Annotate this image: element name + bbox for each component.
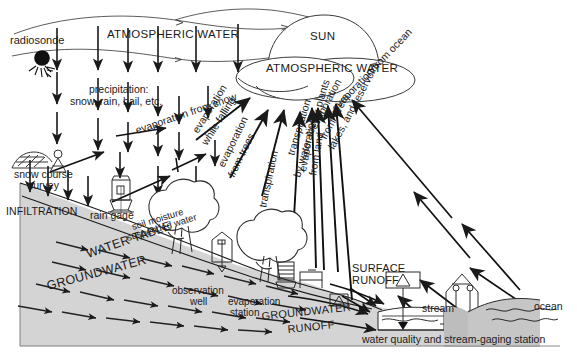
label-surface-runoff-1: SURFACE [352, 262, 405, 274]
label-observation-well-1: observation [172, 285, 224, 296]
radiosonde [29, 50, 55, 77]
label-observation-well-2: well [189, 296, 207, 307]
label-surface-runoff-2: RUNOFF [352, 274, 399, 286]
label-gaging-station: water quality and stream-gaging station [361, 333, 545, 345]
label-precipitation-line1: precipitation: [89, 83, 149, 95]
label-infiltration: INFILTRATION [6, 205, 77, 217]
label-stream: stream [422, 302, 454, 314]
hydrologic-cycle-diagram: radiosonde ATMOSPHERIC WATER SUN ATMOSPH… [0, 0, 577, 364]
label-radiosonde: radiosonde [10, 34, 64, 46]
label-ocean: ocean [534, 300, 563, 312]
label-rain-gage: rain gage [90, 209, 134, 221]
label-snow-course-2: survey [28, 179, 60, 191]
label-sun: SUN [310, 30, 335, 42]
diagram-canvas: radiosonde ATMOSPHERIC WATER SUN ATMOSPH… [0, 0, 577, 364]
label-precipitation-line2: snow, rain, hail, etc. [70, 95, 162, 107]
label-evaporation-station-2: station [230, 307, 259, 318]
label-atmospheric-water-top: ATMOSPHERIC WATER [107, 28, 239, 40]
label-evaporation-station-1: evaporation [228, 296, 280, 307]
label-transpiration: transpiration [256, 149, 280, 208]
